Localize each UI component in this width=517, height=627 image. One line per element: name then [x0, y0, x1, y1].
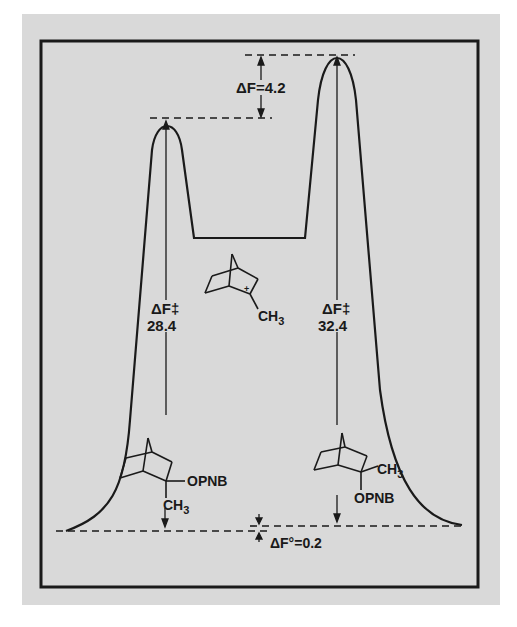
- left-reactant-structure: OPNB CH3: [120, 438, 227, 516]
- cation-charge: +: [244, 284, 249, 294]
- energy-diagram: ΔF=4.2 ΔF‡ 28.4 ΔF‡ 32.4 ΔF°=0.2 + CH3 O…: [0, 0, 517, 627]
- intermediate-cation-structure: + CH3: [205, 254, 284, 327]
- arrowhead-down-icon: [334, 514, 340, 522]
- arrowhead-down-icon: [162, 519, 168, 527]
- right-barrier-symbol: ΔF‡: [322, 300, 350, 317]
- opnb-label: OPNB: [354, 490, 394, 506]
- ch3-label: CH: [377, 461, 397, 477]
- svg-text:CH3: CH3: [377, 461, 403, 480]
- right-barrier-value: 32.4: [318, 317, 348, 334]
- opnb-label: OPNB: [187, 473, 227, 489]
- ch3-label: CH: [258, 308, 278, 324]
- svg-text:CH3: CH3: [163, 497, 189, 516]
- arrowhead-up-icon: [258, 57, 264, 65]
- arrowhead-down-icon: [258, 109, 264, 117]
- ground-state-diff-label: ΔF°=0.2: [270, 535, 322, 551]
- delta-f-transition-label: ΔF=4.2: [236, 79, 286, 96]
- left-barrier-symbol: ΔF‡: [151, 300, 179, 317]
- svg-text:CH3: CH3: [258, 308, 284, 327]
- ch3-label: CH: [163, 497, 183, 513]
- left-barrier-value: 28.4: [147, 317, 177, 334]
